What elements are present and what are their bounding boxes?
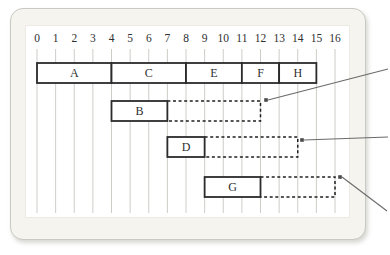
callout-g-line [342,177,387,211]
axis-tick-label: 10 [218,32,230,44]
axis-tick-label: 1 [53,32,59,44]
axis-tick-label: 16 [329,32,341,44]
axis-tick-label: 3 [90,32,96,44]
block-label-b: B [135,104,143,118]
block-label-e: E [210,66,217,80]
block-label-f: F [257,66,264,80]
axis-tick-label: 2 [71,32,77,44]
axis-tick-label: 6 [146,32,152,44]
axis-tick-label: 14 [292,32,304,44]
axis-tick-label: 0 [34,32,40,44]
scheduling-diagram: 012345678910111213141516ACEFHBDG [0,0,390,255]
axis-tick-label: 4 [109,32,115,44]
axis-tick-label: 15 [311,32,323,44]
axis-tick-label: 5 [127,32,133,44]
block-label-g: G [228,180,237,194]
block-label-h: H [293,66,302,80]
axis-tick-label: 12 [255,32,267,44]
block-label-c: C [145,66,153,80]
segment-row-b-dashed-extension [167,101,260,121]
axis-tick-label: 7 [165,32,171,44]
axis-tick-label: 11 [236,32,247,44]
callout-d-dot [300,138,304,142]
segment-row-d-dashed-extension [205,137,298,157]
axis-tick-label: 13 [273,32,285,44]
callout-b-dot [264,98,268,102]
axis-tick-label: 8 [183,32,189,44]
axis-tick-label: 9 [202,32,208,44]
block-label-d: D [182,140,191,154]
block-label-a: A [70,66,79,80]
callout-g-dot [338,175,342,179]
